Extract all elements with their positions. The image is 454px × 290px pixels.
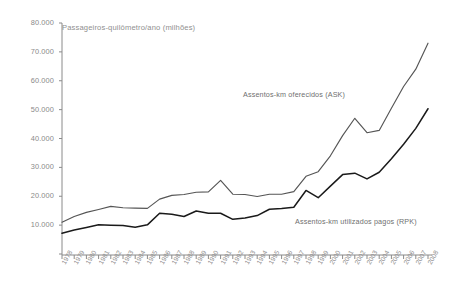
- y-axis-tick-label: 40.000: [10, 134, 54, 143]
- y-axis-tick-label: 30.000: [10, 162, 54, 171]
- series-line-rpk: [62, 109, 428, 233]
- chart-series-lines: [62, 43, 428, 233]
- chart-axes: [62, 23, 432, 255]
- y-axis-tick-label: 80.000: [10, 18, 54, 27]
- y-axis-tick-label: 60.000: [10, 76, 54, 85]
- chart-plot-area: [0, 0, 454, 290]
- chart-container: Passageiros-quilômetro/ano (milhões) Ass…: [0, 0, 454, 290]
- y-axis-tick-label: 20.000: [10, 191, 54, 200]
- y-axis-tick-label: 70.000: [10, 47, 54, 56]
- y-axis-tick-label: 50.000: [10, 105, 54, 114]
- y-axis-tick-label: 10.000: [10, 220, 54, 229]
- series-line-ask: [62, 43, 428, 222]
